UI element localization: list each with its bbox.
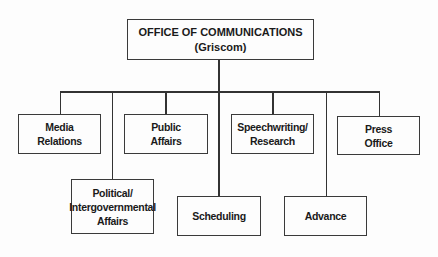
- advance-box: Advance: [284, 196, 367, 236]
- box-label-line: Intergovernmental: [69, 200, 156, 214]
- box-label-line: Affairs: [150, 134, 181, 148]
- press-office-box: Press Office: [337, 116, 420, 155]
- root-connector-line: [218, 59, 220, 92]
- connector-public-affairs: [165, 91, 167, 114]
- box-label-line: Scheduling: [192, 209, 246, 223]
- root-title: OFFICE OF COMMUNICATIONS: [138, 25, 302, 40]
- box-label-line: Media: [45, 120, 73, 134]
- box-label-line: Public: [151, 120, 181, 134]
- office-of-communications-box: OFFICE OF COMMUNICATIONS (Griscom): [127, 19, 314, 60]
- connector-political-affairs: [112, 91, 114, 179]
- connector-scheduling: [218, 91, 220, 196]
- box-label-line: Press: [365, 122, 392, 136]
- box-label-line: Research: [250, 134, 295, 148]
- public-affairs-box: Public Affairs: [124, 114, 208, 154]
- connector-speechwriting-research: [272, 91, 274, 114]
- connector-press-office: [379, 91, 381, 116]
- media-relations-box: Media Relations: [18, 114, 101, 154]
- box-label-line: Political/: [92, 186, 132, 200]
- root-subtitle: (Griscom): [195, 40, 247, 55]
- box-label-line: Speechwriting/: [237, 120, 307, 134]
- connector-media-relations: [60, 91, 62, 114]
- speechwriting-research-box: Speechwriting/ Research: [231, 114, 314, 154]
- scheduling-box: Scheduling: [177, 196, 261, 236]
- political-intergovernmental-affairs-box: Political/ Intergovernmental Affairs: [71, 179, 154, 234]
- box-label-line: Relations: [37, 134, 82, 148]
- box-label-line: Advance: [305, 209, 347, 223]
- connector-advance: [326, 91, 328, 196]
- box-label-line: Affairs: [97, 214, 128, 228]
- horizontal-bus-line: [60, 91, 380, 93]
- box-label-line: Office: [365, 136, 393, 150]
